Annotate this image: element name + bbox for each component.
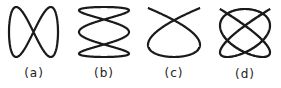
- label-d: (d): [220, 67, 270, 81]
